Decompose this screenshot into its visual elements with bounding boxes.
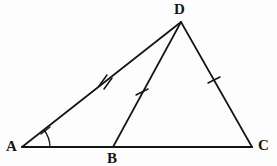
segment-dc bbox=[181, 22, 252, 147]
vertex-label-b: B bbox=[107, 151, 117, 166]
geometry-figure: A B C D bbox=[0, 0, 277, 166]
vertex-label-a: A bbox=[6, 139, 17, 154]
vertex-label-d: D bbox=[174, 2, 185, 17]
vertex-label-c: C bbox=[258, 138, 269, 153]
triangle-diagram bbox=[0, 0, 277, 166]
segment-bd bbox=[113, 22, 181, 147]
segment-ad bbox=[22, 22, 181, 147]
tick-marks-dc bbox=[208, 77, 220, 83]
angle-arc-a bbox=[44, 130, 50, 147]
